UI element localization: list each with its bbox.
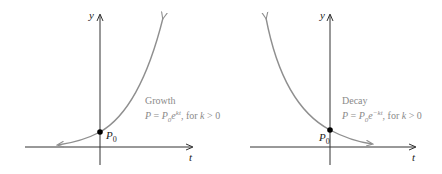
decay-formula: P = P0e−kt, for k > 0 xyxy=(342,107,422,126)
decay-p0-letter: P xyxy=(319,131,326,143)
growth-t-label: t xyxy=(189,151,192,163)
decay-p0-label: P0 xyxy=(319,131,330,146)
growth-formula: P = P0ekt, for k > 0 xyxy=(145,107,220,126)
growth-annotation: Growth P = P0ekt, for k > 0 xyxy=(145,95,220,126)
formula-eq: = xyxy=(151,110,162,121)
diagram-canvas xyxy=(0,0,442,174)
growth-p0-label: P0 xyxy=(106,129,117,144)
decay-y-label: y xyxy=(320,9,325,21)
formula-eq: = xyxy=(348,110,359,121)
formula-exp: −kt xyxy=(373,109,383,117)
formula-cond-pre: , for xyxy=(383,110,402,121)
growth-p0-sub: 0 xyxy=(113,135,117,144)
decay-title: Decay xyxy=(342,95,422,107)
decay-p0-sub: 0 xyxy=(326,137,330,146)
growth-y-label: y xyxy=(89,9,94,21)
formula-cond-pre: , for xyxy=(181,110,200,121)
growth-p0-point xyxy=(97,129,103,135)
formula-cond-post: > 0 xyxy=(205,110,221,121)
decay-annotation: Decay P = P0e−kt, for k > 0 xyxy=(342,95,422,126)
decay-t-label: t xyxy=(412,151,415,163)
formula-cond-post: > 0 xyxy=(406,110,422,121)
growth-p0-letter: P xyxy=(106,129,113,141)
decay-chart xyxy=(250,15,415,165)
growth-title: Growth xyxy=(145,95,220,107)
